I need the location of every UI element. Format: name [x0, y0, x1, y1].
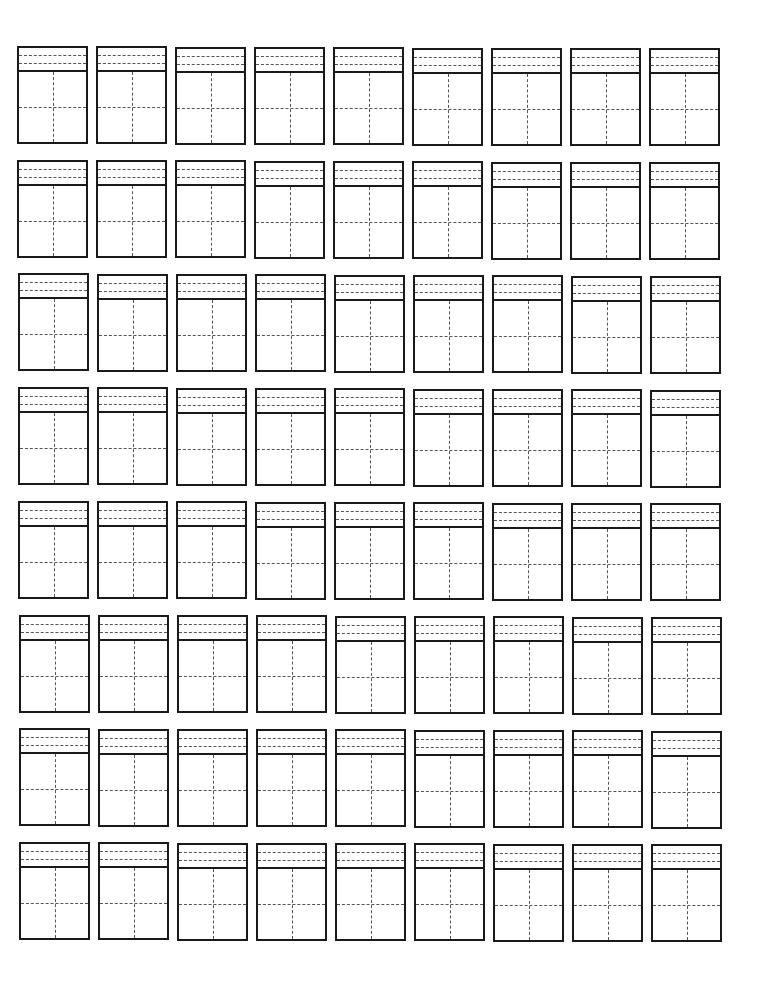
- practice-cell: [493, 616, 564, 714]
- pinyin-guide-line: [416, 625, 483, 626]
- pinyin-guide-line: [493, 65, 560, 66]
- pinyin-guide-line: [335, 170, 402, 171]
- pinyin-guide-line: [574, 853, 641, 854]
- pinyin-guide-line: [21, 737, 88, 738]
- vertical-guide-line: [212, 527, 213, 597]
- character-square: [257, 414, 324, 484]
- pinyin-guide-line: [179, 738, 246, 739]
- pinyin-guide-line: [99, 396, 166, 397]
- pinyin-guide-line: [416, 747, 483, 748]
- pinyin-band: [493, 164, 560, 188]
- practice-cell: [177, 843, 248, 941]
- pinyin-guide-line: [651, 57, 718, 58]
- pinyin-guide-line: [256, 170, 323, 171]
- pinyin-guide-line: [99, 518, 166, 519]
- pinyin-guide-line: [652, 407, 719, 408]
- character-square: [651, 74, 718, 144]
- character-square: [179, 641, 246, 711]
- practice-cell: [18, 387, 89, 485]
- vertical-guide-line: [449, 528, 450, 598]
- pinyin-guide-line: [20, 290, 87, 291]
- vertical-guide-line: [370, 414, 371, 484]
- character-square: [415, 301, 482, 371]
- pinyin-guide-line: [178, 510, 245, 511]
- vertical-guide-line: [292, 869, 293, 939]
- pinyin-band: [99, 389, 166, 413]
- pinyin-guide-line: [99, 291, 166, 292]
- practice-cell: [177, 615, 248, 713]
- practice-cell: [255, 502, 326, 600]
- pinyin-guide-line: [256, 178, 323, 179]
- practice-cell: [335, 616, 406, 714]
- pinyin-band: [178, 276, 245, 300]
- pinyin-guide-line: [416, 852, 483, 853]
- vertical-guide-line: [369, 73, 370, 143]
- character-square: [337, 642, 404, 712]
- pinyin-guide-line: [495, 739, 562, 740]
- pinyin-guide-line: [652, 399, 719, 400]
- practice-cell: [650, 276, 721, 374]
- pinyin-band: [177, 49, 244, 73]
- character-square: [98, 186, 165, 256]
- practice-cell: [177, 729, 248, 827]
- pinyin-guide-line: [572, 171, 639, 172]
- pinyin-guide-line: [178, 283, 245, 284]
- vertical-guide-line: [529, 756, 530, 826]
- vertical-guide-line: [290, 187, 291, 257]
- practice-cell: [97, 501, 168, 599]
- pinyin-guide-line: [100, 632, 167, 633]
- vertical-guide-line: [449, 301, 450, 371]
- pinyin-guide-line: [20, 518, 87, 519]
- vertical-guide-line: [132, 186, 133, 256]
- character-square: [495, 642, 562, 712]
- pinyin-guide-line: [20, 396, 87, 397]
- pinyin-guide-line: [651, 171, 718, 172]
- practice-cell: [571, 276, 642, 374]
- character-square: [177, 73, 244, 143]
- pinyin-guide-line: [495, 633, 562, 634]
- character-square: [414, 74, 481, 144]
- pinyin-guide-line: [337, 746, 404, 747]
- character-square: [99, 527, 166, 597]
- vertical-guide-line: [211, 186, 212, 256]
- pinyin-band: [98, 162, 165, 186]
- practice-cell: [414, 843, 485, 941]
- pinyin-guide-line: [98, 63, 165, 64]
- pinyin-guide-line: [336, 511, 403, 512]
- character-square: [256, 187, 323, 257]
- pinyin-band: [574, 732, 641, 756]
- pinyin-guide-line: [494, 398, 561, 399]
- pinyin-band: [19, 48, 86, 72]
- vertical-guide-line: [528, 415, 529, 485]
- pinyin-band: [495, 732, 562, 756]
- practice-cell: [256, 843, 327, 941]
- vertical-guide-line: [212, 414, 213, 484]
- character-square: [415, 415, 482, 485]
- pinyin-guide-line: [652, 512, 719, 513]
- pinyin-band: [414, 50, 481, 74]
- character-square: [100, 868, 167, 938]
- pinyin-guide-line: [414, 65, 481, 66]
- pinyin-guide-line: [177, 169, 244, 170]
- practice-cell: [19, 842, 90, 940]
- vertical-guide-line: [607, 529, 608, 599]
- practice-cell: [493, 844, 564, 942]
- vertical-guide-line: [133, 413, 134, 483]
- vertical-guide-line: [55, 754, 56, 824]
- character-square: [653, 870, 720, 940]
- vertical-guide-line: [370, 301, 371, 371]
- vertical-guide-line: [448, 74, 449, 144]
- practice-cell: [492, 503, 563, 601]
- character-square: [495, 870, 562, 940]
- character-square: [19, 72, 86, 142]
- pinyin-band: [416, 845, 483, 869]
- vertical-guide-line: [608, 643, 609, 713]
- pinyin-guide-line: [653, 626, 720, 627]
- pinyin-guide-line: [177, 56, 244, 57]
- vertical-guide-line: [370, 528, 371, 598]
- pinyin-guide-line: [19, 177, 86, 178]
- pinyin-band: [256, 49, 323, 73]
- pinyin-band: [572, 164, 639, 188]
- character-square: [19, 186, 86, 256]
- practice-cell: [492, 389, 563, 487]
